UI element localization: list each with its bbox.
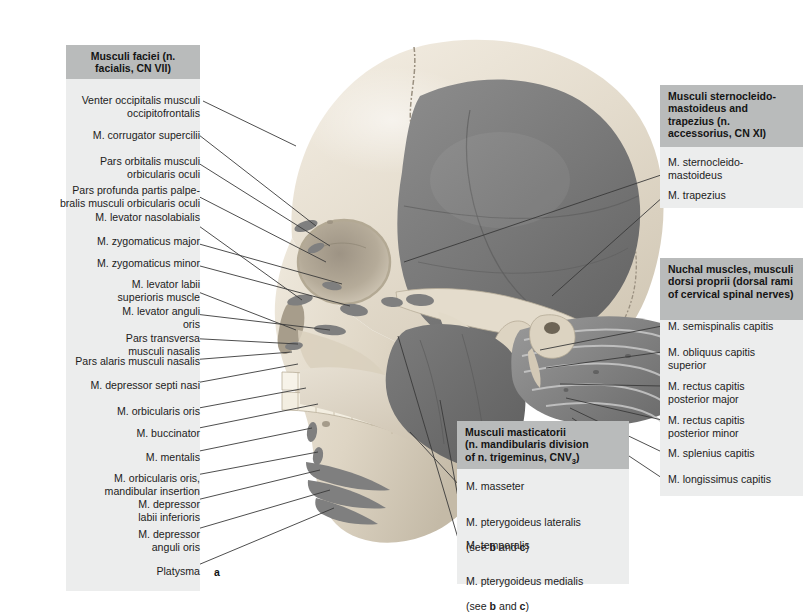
- center-header-line1: Musculi masticatorii: [465, 426, 566, 438]
- center-header-line3: of n. trigeminus, CNV3): [465, 451, 580, 463]
- external-acoustic-meatus: [544, 322, 560, 334]
- figure-panel-letter: a: [214, 566, 220, 578]
- label-platysma: Platysma: [54, 565, 200, 578]
- label-levator-labii-superioris: M. levator labii superioris muscle: [54, 278, 200, 303]
- label-mentalis: M. mentalis: [54, 451, 200, 464]
- label-sternocleidomastoideus: M. sternocleido- mastoideus: [668, 156, 803, 181]
- pterygoideus-medialis-name: M. pterygoideus medialis: [466, 575, 583, 587]
- label-zygomaticus-minor: M. zygomaticus minor: [54, 257, 200, 270]
- label-longissimus-capitis: M. longissimus capitis: [668, 473, 803, 486]
- label-venter-occipitalis: Venter occipitalis musculi occipitofront…: [54, 94, 200, 119]
- label-masseter: M. masseter: [466, 480, 626, 493]
- label-obliquus-capitis-superior: M. obliquus capitis superior: [668, 346, 803, 371]
- label-pterygoideus-medialis: M. pterygoideus medialis (see b and c): [466, 562, 626, 612]
- label-depressor-anguli-oris: M. depressor anguli oris: [54, 528, 200, 553]
- label-buccinator: M. buccinator: [54, 427, 200, 440]
- right-top-panel-header: Musculi sternocleido- mastoideus and tra…: [660, 85, 803, 147]
- label-depressor-labii-inferioris: M. depressor labii inferioris: [54, 498, 200, 523]
- label-trapezius: M. trapezius: [668, 189, 803, 202]
- label-levator-anguli-oris: M. levator anguli oris: [54, 305, 200, 330]
- label-pars-orbitalis: Pars orbitalis musculi orbicularis oculi: [54, 155, 200, 180]
- label-pars-transversa: Pars transversa musculi nasalis: [54, 332, 200, 357]
- center-panel-header: Musculi masticatorii (n. mandibularis di…: [457, 421, 629, 469]
- left-panel-header: Musculi faciei (n. facialis, CN VII): [66, 45, 200, 79]
- label-temporalis: M. temporalis: [466, 539, 626, 552]
- pterygoideus-medialis-note: (see b and c): [466, 600, 529, 612]
- label-zygomaticus-major: M. zygomaticus major: [54, 235, 200, 248]
- center-header-line2: (n. mandibularis division: [465, 438, 589, 450]
- right-bottom-panel-header: Nuchal muscles, musculi dorsi proprii (d…: [660, 258, 803, 320]
- label-levator-nasolabialis: M. levator nasolabialis: [54, 211, 200, 224]
- label-pars-alaris: Pars alaris musculi nasalis: [44, 355, 200, 368]
- label-rectus-capitis-posterior-major: M. rectus capitis posterior major: [668, 380, 803, 405]
- label-splenius-capitis: M. splenius capitis: [668, 447, 803, 460]
- label-semispinalis-capitis: M. semispinalis capitis: [668, 320, 803, 333]
- label-pars-profunda: Pars profunda partis palpe- bralis muscu…: [34, 184, 200, 209]
- label-orbicularis-oris-mandibular: M. orbicularis oris, mandibular insertio…: [44, 472, 200, 497]
- label-depressor-septi-nasi: M. depressor septi nasi: [54, 379, 200, 392]
- label-orbicularis-oris: M. orbicularis oris: [54, 405, 200, 418]
- pterygoideus-lateralis-name: M. pterygoideus lateralis: [466, 516, 581, 528]
- label-rectus-capitis-posterior-minor: M. rectus capitis posterior minor: [668, 414, 803, 439]
- label-corrugator-supercilii: M. corrugator supercilii: [54, 129, 200, 142]
